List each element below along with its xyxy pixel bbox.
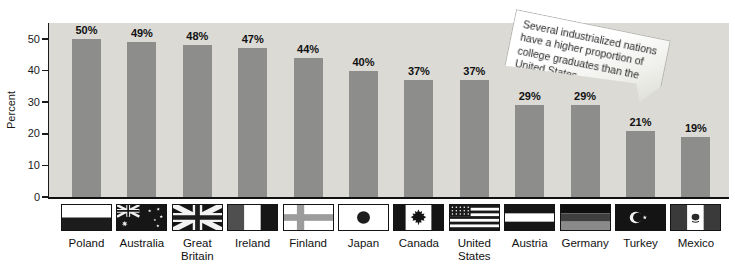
bar-value-label: 19% xyxy=(674,122,718,135)
bar xyxy=(127,42,156,197)
finland-flag-icon xyxy=(283,204,334,231)
bar xyxy=(515,105,544,197)
bar-value-label: 49% xyxy=(120,27,164,40)
bar-value-label: 37% xyxy=(452,65,496,78)
austria-flag-icon xyxy=(504,204,555,231)
australia-flag-icon xyxy=(116,204,167,231)
canada-flag-icon xyxy=(393,204,444,231)
united-states-flag-icon xyxy=(449,204,500,231)
y-axis-tick-mark xyxy=(42,70,48,72)
bar xyxy=(404,80,433,197)
category-label: Poland xyxy=(56,237,118,250)
bar-value-label: 37% xyxy=(397,65,441,78)
category-label: Great Britain xyxy=(166,237,228,262)
category-label: Mexico xyxy=(665,237,727,250)
germany-flag-icon xyxy=(560,204,611,231)
y-axis-tick-label: 20 xyxy=(16,127,40,140)
y-axis-tick-mark xyxy=(42,196,48,198)
bar-chart-figure: Percent Several industrialized nations h… xyxy=(0,0,735,273)
bar-value-label: 44% xyxy=(286,43,330,56)
category-label: Finland xyxy=(277,237,339,250)
bar-value-label: 47% xyxy=(231,33,275,46)
category-label: Australia xyxy=(111,237,173,250)
japan-flag-icon xyxy=(338,204,389,231)
y-axis-tick-label: 50 xyxy=(16,33,40,46)
bar xyxy=(460,80,489,197)
category-label: Turkey xyxy=(610,237,672,250)
bar-value-label: 50% xyxy=(65,24,109,37)
bar-value-label: 40% xyxy=(342,56,386,69)
bar xyxy=(681,137,710,197)
category-label: United States xyxy=(443,237,505,262)
turkey-flag-icon xyxy=(615,204,666,231)
bar-value-label: 21% xyxy=(619,116,663,129)
bar xyxy=(626,131,655,197)
bar-value-label: 48% xyxy=(175,30,219,43)
ireland-flag-icon xyxy=(227,204,278,231)
bar xyxy=(238,48,267,197)
category-label: Japan xyxy=(333,237,395,250)
y-axis-tick-label: 10 xyxy=(16,159,40,172)
category-label: Austria xyxy=(499,237,561,250)
y-axis-tick-label: 30 xyxy=(16,96,40,109)
bar xyxy=(72,39,101,197)
category-label: Germany xyxy=(554,237,616,250)
y-axis-tick-mark xyxy=(42,38,48,40)
poland-flag-icon xyxy=(61,204,112,231)
y-axis-tick-mark xyxy=(42,165,48,167)
y-axis-tick-mark xyxy=(42,133,48,135)
bar xyxy=(571,105,600,197)
category-label: Ireland xyxy=(222,237,284,250)
y-axis-tick-mark xyxy=(42,101,48,103)
bar-value-label: 29% xyxy=(508,90,552,103)
bar xyxy=(294,58,323,197)
y-axis-tick-label: 0 xyxy=(16,191,40,204)
y-axis-tick-label: 40 xyxy=(16,64,40,77)
bar xyxy=(183,45,212,197)
bar-value-label: 29% xyxy=(563,90,607,103)
great-britain-flag-icon xyxy=(172,204,223,231)
bar xyxy=(349,71,378,197)
category-label: Canada xyxy=(388,237,450,250)
mexico-flag-icon xyxy=(670,204,721,231)
